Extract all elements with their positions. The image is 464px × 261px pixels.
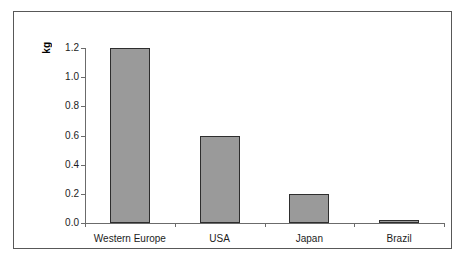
- bar: [200, 136, 240, 224]
- y-tick-mark: [81, 77, 85, 78]
- bar: [289, 194, 329, 223]
- y-tick-mark: [81, 136, 85, 137]
- y-tick-label: 1.0: [65, 70, 79, 83]
- x-axis-category-label: Japan: [296, 232, 323, 245]
- plot-area: 1.21.00.80.60.40.20.0 Western EuropeUSAJ…: [85, 48, 444, 223]
- y-tick-mark: [81, 106, 85, 107]
- y-tick-mark: [81, 194, 85, 195]
- y-tick-label: 0.4: [65, 158, 79, 171]
- y-tick-label: 0.8: [65, 99, 79, 112]
- y-tick-label: 0.0: [65, 216, 79, 229]
- x-axis-category-label: USA: [209, 232, 230, 245]
- y-axis-title: kg: [41, 42, 52, 54]
- chart-screenshot: kg 1.21.00.80.60.40.20.0 Western EuropeU…: [0, 0, 464, 261]
- x-tick-mark: [175, 223, 176, 227]
- x-tick-mark: [354, 223, 355, 227]
- bar: [110, 48, 150, 223]
- bar: [379, 220, 419, 223]
- y-tick-label: 1.2: [65, 41, 79, 54]
- y-tick-label: 0.6: [65, 129, 79, 142]
- y-tick-mark: [81, 165, 85, 166]
- x-axis-category-label: Western Europe: [94, 232, 166, 245]
- y-axis-line: [85, 48, 86, 224]
- y-tick-label: 0.2: [65, 187, 79, 200]
- x-axis-category-label: Brazil: [387, 232, 412, 245]
- x-tick-mark: [85, 223, 86, 227]
- figure-frame: kg 1.21.00.80.60.40.20.0 Western EuropeU…: [13, 11, 452, 249]
- y-tick-mark: [81, 48, 85, 49]
- x-tick-mark: [444, 223, 445, 227]
- x-tick-mark: [265, 223, 266, 227]
